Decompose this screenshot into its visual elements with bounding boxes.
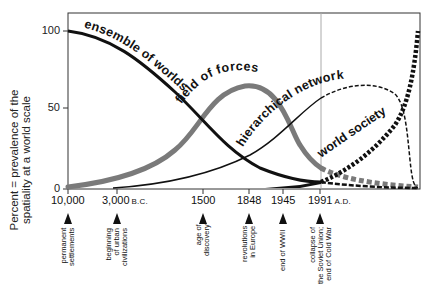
- arrow-up-icon: [316, 213, 324, 224]
- x-tick-1991: 1991A.D.: [308, 194, 351, 206]
- annotation-end-of-wwii: end of WWII: [279, 230, 287, 271]
- series-hierarchical-network: [113, 98, 321, 188]
- annotation-collapse-soviet-union: collapse ofthe Soviet Union;end of Cold …: [309, 227, 333, 284]
- annotation-permanent-settlements: permanentsettlements: [60, 228, 76, 266]
- y-axis-label: Percent = prevalence of the spatiality a…: [8, 70, 32, 250]
- y-axis-label-line-2: spatiality at a world scale: [20, 70, 32, 250]
- x-tick-1945: 1945: [271, 194, 295, 206]
- annotation-revolutions-in-europe: revolutionsin Europe: [241, 226, 257, 262]
- label-ensemble-of-worlds: ensemble of worlds: [83, 17, 191, 94]
- series-world-society-projection: [321, 31, 418, 182]
- y-axis-label-line-1: Percent = prevalence of the: [8, 70, 20, 250]
- y-tick-0: 0: [30, 182, 60, 194]
- arrow-up-icon: [199, 213, 207, 224]
- arrow-up-icon: [64, 213, 72, 224]
- arrow-up-icon: [279, 213, 287, 224]
- x-tick-1500: 1500: [191, 194, 215, 206]
- y-tick-100: 100: [30, 24, 60, 36]
- x-tick-3000: 3,000B.C.: [102, 194, 148, 206]
- x-tick-10000: 10,000: [51, 194, 85, 206]
- arrow-up-icon: [113, 213, 121, 224]
- label-world-society: world society: [314, 104, 389, 161]
- label-hierarchical-network: hierarchical network: [233, 68, 344, 149]
- annotation-age-of-discovery: age ofdiscovery: [195, 224, 211, 256]
- x-tick-1848: 1848: [237, 194, 261, 206]
- arrow-up-icon: [245, 213, 253, 224]
- annotation-urban-civilizations: beginningof urbancivilizations: [105, 228, 129, 266]
- y-tick-50: 50: [30, 101, 60, 113]
